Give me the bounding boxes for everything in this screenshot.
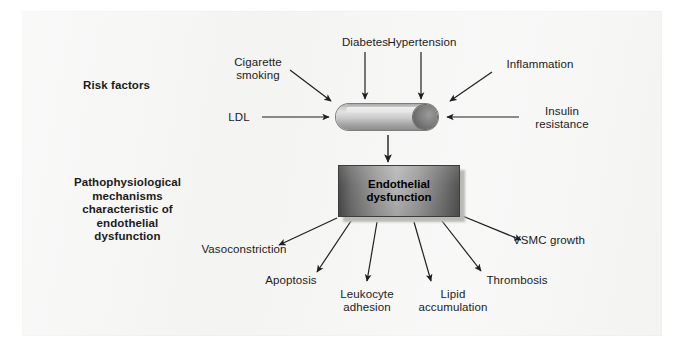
vessel-highlight xyxy=(346,107,424,113)
label-thrombosis: Thrombosis xyxy=(477,274,557,287)
section-label-pathophysiological-mechanisms: Pathophysiological mechanisms characteri… xyxy=(59,176,196,244)
dysfunction-box-label: Endothelial dysfunction xyxy=(366,178,431,205)
dysfunction-line-2: dysfunction xyxy=(366,191,431,205)
label-apoptosis: Apoptosis xyxy=(255,274,327,287)
insulin-line-1: Insulin xyxy=(528,105,596,118)
label-inflammation: Inflammation xyxy=(499,58,581,71)
cigarette-line-2: smoking xyxy=(226,69,290,82)
label-vsmc-growth: VSMC growth xyxy=(504,234,594,247)
label-ldl: LDL xyxy=(222,111,256,124)
cigarette-line-1: Cigarette xyxy=(226,56,290,69)
label-hypertension: Hypertension xyxy=(381,36,463,49)
mechanisms-line-4: endothelial xyxy=(59,217,196,231)
mechanisms-line-1: Pathophysiological xyxy=(59,176,196,190)
leukocyte-line-2: adhesion xyxy=(331,301,403,314)
endothelial-dysfunction-box: Endothelial dysfunction xyxy=(338,165,460,217)
insulin-line-2: resistance xyxy=(528,118,596,131)
leukocyte-line-1: Leukocyte xyxy=(331,288,403,301)
dysfunction-line-1: Endothelial xyxy=(366,178,431,192)
mechanisms-line-2: mechanisms xyxy=(59,190,196,204)
mechanisms-line-3: characteristic of xyxy=(59,203,196,217)
endothelial-dysfunction-diagram: Risk factors Pathophysiological mechanis… xyxy=(0,0,683,350)
vessel-lumen-icon xyxy=(413,105,437,129)
label-insulin-resistance: Insulin resistance xyxy=(528,105,596,131)
lipid-line-1: Lipid xyxy=(411,288,495,301)
label-vasoconstriction: Vasoconstriction xyxy=(189,243,299,256)
mechanisms-line-5: dysfunction xyxy=(59,230,196,244)
section-label-risk-factors: Risk factors xyxy=(83,79,150,93)
label-lipid-accumulation: Lipid accumulation xyxy=(411,288,495,314)
label-leukocyte-adhesion: Leukocyte adhesion xyxy=(331,288,403,314)
lipid-line-2: accumulation xyxy=(411,301,495,314)
label-cigarette-smoking: Cigarette smoking xyxy=(226,56,290,82)
blood-vessel-graphic xyxy=(336,104,438,130)
